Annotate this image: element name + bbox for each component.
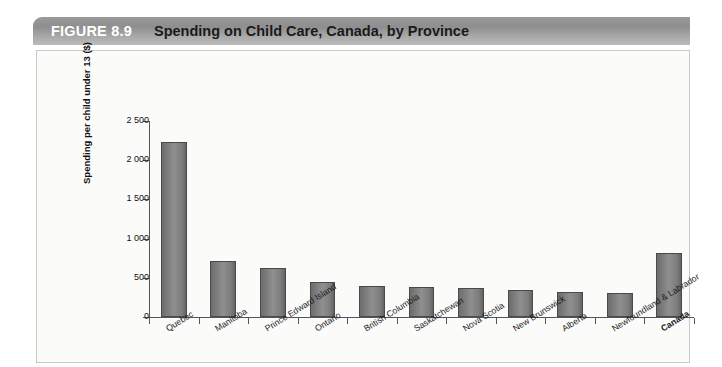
y-axis-tick-label: 500 — [103, 272, 149, 282]
y-axis-title: Spending per child under 13 ($) — [81, 33, 92, 193]
x-axis-tick — [446, 318, 447, 324]
figure-panel: Spending per child under 13 ($) 05001 00… — [36, 50, 690, 363]
x-axis-tick — [199, 318, 200, 324]
y-axis-tick-label: 1 500 — [103, 193, 149, 203]
x-axis-tick — [149, 318, 150, 324]
y-axis-tick-label: 2 500 — [103, 115, 149, 125]
x-axis-tick — [248, 318, 249, 324]
chart-plot-area: Spending per child under 13 ($) 05001 00… — [89, 113, 709, 367]
bar — [260, 268, 286, 317]
bar — [210, 261, 236, 317]
y-axis-tick-label: 2 000 — [103, 154, 149, 164]
x-axis-tick — [644, 318, 645, 324]
x-axis-tick — [397, 318, 398, 324]
x-axis-tick — [595, 318, 596, 324]
x-axis-labels: QuebecManitobaPrince Edward IslandOntari… — [149, 325, 709, 367]
x-axis-tick — [694, 318, 695, 324]
bar-series — [149, 121, 694, 317]
x-axis-tick — [545, 318, 546, 324]
x-axis-tick — [347, 318, 348, 324]
figure-container: FIGURE 8.9 Spending on Child Care, Canad… — [0, 0, 722, 367]
x-axis-tick — [496, 318, 497, 324]
figure-title-bar: FIGURE 8.9 Spending on Child Care, Canad… — [33, 17, 690, 45]
bar — [161, 142, 187, 317]
y-axis-tick-label: 1 000 — [103, 233, 149, 243]
figure-title: Spending on Child Care, Canada, by Provi… — [154, 23, 469, 39]
y-axis-tick-label: 0 — [103, 311, 149, 321]
x-axis-tick — [298, 318, 299, 324]
